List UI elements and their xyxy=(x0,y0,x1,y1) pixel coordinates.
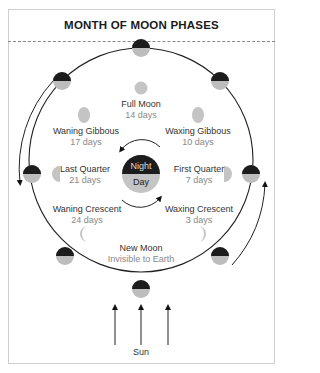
rotation-arrow-bottom xyxy=(122,198,160,207)
day-label: Day xyxy=(133,177,149,188)
phase-waning-crescent: Waning Crescent24 days xyxy=(53,204,122,226)
last-quarter-icon xyxy=(52,166,60,182)
waning-gibbous-icon xyxy=(78,107,90,123)
first-quarter-icon xyxy=(224,166,232,182)
phase-first-quarter: First Quarter7 days xyxy=(174,164,225,186)
rotation-arrow-top xyxy=(121,140,160,150)
phase-full-moon: Full Moon14 days xyxy=(121,99,161,121)
phase-waning-gibbous: Waning Gibbous17 days xyxy=(53,126,119,148)
sun-rays xyxy=(115,307,168,345)
phase-new-moon: New MoonInvisible to Earth xyxy=(108,243,175,265)
waxing-gibbous-icon xyxy=(192,107,204,123)
night-label: Night xyxy=(130,161,151,172)
phase-waxing-gibbous: Waxing Gibbous10 days xyxy=(165,126,231,148)
phase-last-quarter: Last Quarter21 days xyxy=(60,164,110,186)
phase-waxing-crescent: Waxing Crescent3 days xyxy=(165,204,233,226)
sun-label: Sun xyxy=(133,347,149,358)
waning-crescent-icon xyxy=(80,226,88,242)
waxing-crescent-icon xyxy=(198,226,206,242)
full-moon-icon xyxy=(135,82,148,95)
orbit-direction-arrow-right xyxy=(232,184,265,265)
